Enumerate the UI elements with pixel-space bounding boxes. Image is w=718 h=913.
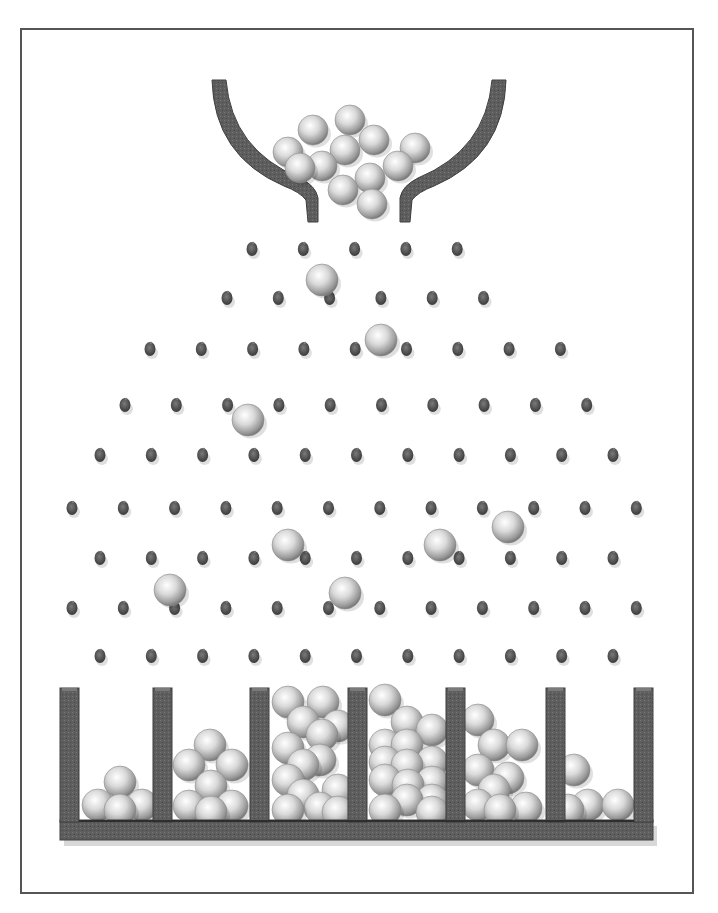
peg [197, 448, 211, 465]
hopper-ball [357, 189, 390, 222]
peg [298, 242, 312, 259]
peg [505, 649, 519, 666]
peg [505, 448, 519, 465]
peg [528, 501, 542, 518]
peg [325, 398, 339, 415]
peg [631, 501, 645, 518]
peg [350, 342, 364, 359]
peg [426, 501, 440, 518]
peg [505, 551, 519, 568]
peg [401, 342, 415, 359]
peg [247, 242, 261, 259]
peg [374, 601, 388, 618]
peg [580, 501, 594, 518]
peg [222, 291, 236, 308]
peg [427, 398, 441, 415]
peg [220, 601, 234, 618]
peg [196, 342, 210, 359]
bin-4-balls [369, 684, 451, 830]
peg [67, 501, 81, 518]
peg [454, 649, 468, 666]
peg [477, 601, 491, 618]
falling-ball [306, 264, 341, 298]
peg [555, 342, 569, 359]
falling-ball [492, 511, 527, 545]
peg [95, 448, 109, 465]
peg [556, 448, 570, 465]
falling-ball [329, 577, 364, 611]
bin-divider-wall [348, 688, 367, 822]
peg [300, 448, 314, 465]
peg [580, 601, 594, 618]
peg [504, 342, 517, 359]
falling-ball [365, 324, 400, 358]
peg [298, 342, 312, 359]
peg [273, 398, 287, 415]
hopper-ball [359, 125, 392, 158]
bin-divider-wall [250, 688, 269, 822]
peg [631, 601, 645, 618]
peg [556, 649, 570, 666]
bin-ball [602, 789, 637, 823]
peg [351, 551, 365, 568]
peg [528, 601, 542, 618]
peg [402, 649, 416, 666]
peg [402, 551, 416, 568]
falling-ball [424, 529, 459, 563]
peg [376, 398, 390, 415]
peg [95, 551, 109, 568]
bin-ball [506, 729, 541, 763]
bin-floor [60, 820, 653, 840]
peg [248, 551, 262, 568]
bin-3-balls [272, 686, 357, 830]
bin-divider-wall [446, 688, 465, 822]
bin-divider-wall [60, 688, 79, 822]
hopper-ball [298, 115, 331, 148]
peg [145, 342, 159, 359]
peg [146, 448, 160, 465]
peg [118, 601, 132, 618]
peg [118, 501, 132, 518]
peg [300, 649, 314, 666]
peg [248, 649, 262, 666]
peg [248, 448, 262, 465]
peg [608, 649, 622, 666]
peg [146, 649, 160, 666]
peg [272, 601, 286, 618]
peg [608, 551, 622, 568]
peg [479, 398, 493, 415]
peg [478, 291, 492, 308]
peg [402, 448, 416, 465]
peg [374, 501, 388, 518]
peg [452, 242, 466, 259]
peg [454, 448, 468, 465]
peg [220, 501, 234, 518]
bin-divider-wall [153, 688, 172, 822]
galton-board-illustration [0, 0, 718, 913]
peg [120, 398, 134, 415]
peg [581, 398, 595, 415]
peg [351, 448, 365, 465]
bin-divider-wall [634, 688, 653, 822]
peg [272, 501, 286, 518]
peg [95, 649, 109, 666]
peg [375, 291, 389, 308]
peg [351, 649, 365, 666]
peg [530, 398, 544, 415]
peg [426, 601, 440, 618]
falling-ball [232, 404, 267, 438]
peg [169, 501, 183, 518]
peg [427, 291, 441, 308]
peg [273, 291, 287, 308]
peg [197, 551, 211, 568]
peg [171, 398, 185, 415]
bin-2-balls [173, 729, 251, 830]
peg [400, 242, 414, 259]
bin-5-balls [462, 704, 545, 828]
falling-ball [154, 574, 189, 608]
peg [452, 342, 466, 359]
peg [349, 242, 363, 259]
peg [477, 501, 491, 518]
peg [608, 448, 622, 465]
falling-ball [272, 529, 307, 563]
